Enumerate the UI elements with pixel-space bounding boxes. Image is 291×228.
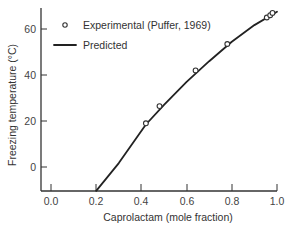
freezing-temperature-chart: 0 20 40 60 0.0 0.2 0.4 0.6 0.8 1.0 Capro… [0,0,291,228]
legend: Experimental (Puffer, 1969) Predicted [54,19,211,51]
legend-circle-marker-icon [63,23,67,27]
x-tick-label: 0.6 [180,195,195,207]
experimental-point [157,104,162,109]
experimental-point [193,68,198,73]
x-tick-label: 0.0 [44,195,59,207]
experimental-point [270,11,275,16]
x-axis-label: Caprolactam (mole fraction) [103,211,233,223]
experimental-point [225,42,230,47]
x-ticks: 0.0 0.2 0.4 0.6 0.8 1.0 [44,184,285,207]
experimental-point [144,121,149,126]
y-tick-label: 20 [24,115,36,127]
y-axis-label: Freezing temperature (°C) [6,44,18,166]
legend-predicted-label: Predicted [83,39,128,51]
y-tick-label: 40 [24,69,36,81]
y-tick-label: 60 [24,23,36,35]
y-ticks: 0 20 40 60 [24,23,47,173]
y-tick-label: 0 [30,161,36,173]
legend-experimental-label: Experimental (Puffer, 1969) [83,19,211,31]
x-tick-label: 0.4 [134,195,149,207]
x-tick-label: 1.0 [270,195,285,207]
x-tick-label: 0.8 [225,195,240,207]
x-tick-label: 0.2 [89,195,104,207]
